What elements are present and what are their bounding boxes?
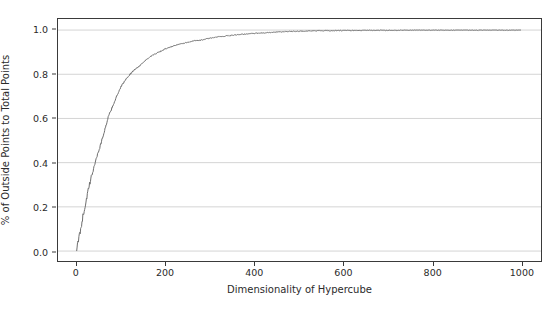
y-tick-mark (52, 207, 56, 208)
y-tick-label: 1.0 (0, 24, 48, 35)
y-tick-label: 0.8 (0, 68, 48, 79)
x-tick-label: 200 (156, 267, 174, 278)
x-tick-mark (522, 262, 523, 266)
y-tick-mark (52, 118, 56, 119)
x-axis-label: Dimensionality of Hypercube (57, 284, 542, 295)
chart-figure: Dimensionality of Hypercube % of Outside… (0, 0, 560, 310)
y-tick-label: 0.2 (0, 202, 48, 213)
y-tick-mark (52, 162, 56, 163)
x-tick-label: 600 (334, 267, 352, 278)
x-tick-mark (165, 262, 166, 266)
x-tick-mark (343, 262, 344, 266)
x-tick-label: 1000 (510, 267, 534, 278)
y-tick-label: 0.4 (0, 157, 48, 168)
y-tick-mark (52, 251, 56, 252)
y-axis-label: % of Outside Points to Total Points (0, 18, 11, 262)
x-tick-mark (76, 262, 77, 266)
y-tick-label: 0.6 (0, 113, 48, 124)
y-tick-label: 0.0 (0, 246, 48, 257)
series-path (77, 30, 521, 251)
y-tick-mark (52, 73, 56, 74)
x-tick-mark (254, 262, 255, 266)
x-tick-label: 400 (245, 267, 263, 278)
data-series-line (58, 19, 541, 261)
y-tick-mark (52, 29, 56, 30)
plot-area (57, 18, 542, 262)
x-tick-mark (433, 262, 434, 266)
x-tick-label: 0 (73, 267, 79, 278)
x-tick-label: 800 (424, 267, 442, 278)
